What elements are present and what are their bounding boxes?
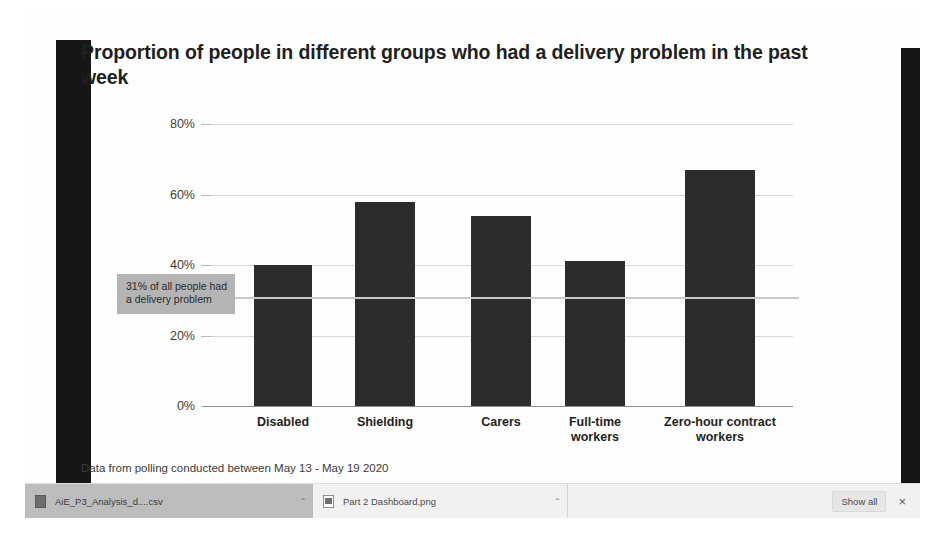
bar-series: [211, 124, 793, 406]
reference-line-31pct: [203, 297, 799, 299]
chart-footnote: Data from polling conducted between May …: [81, 462, 389, 474]
y-axis-tick: [201, 195, 211, 196]
chevron-up-icon[interactable]: ⌃: [554, 497, 561, 506]
download-item[interactable]: AiE_P3_Analysis_d....csv ⌃: [25, 484, 313, 518]
bar: [685, 170, 755, 406]
chevron-up-icon[interactable]: ⌃: [300, 497, 307, 506]
download-item[interactable]: Part 2 Dashboard.png ⌃: [313, 484, 568, 518]
downloads-spacer: [568, 484, 832, 518]
y-axis-tick: [201, 336, 211, 337]
y-axis-tick-label: 0%: [177, 399, 195, 413]
document-canvas: Proportion of people in different groups…: [25, 10, 920, 483]
png-file-icon: [323, 495, 334, 508]
y-axis-tick: [201, 124, 211, 125]
show-all-downloads-button[interactable]: Show all: [832, 491, 886, 512]
y-axis-tick-label: 80%: [170, 117, 195, 131]
x-axis-label: Shielding: [337, 415, 433, 430]
image-viewer: Proportion of people in different groups…: [0, 0, 937, 543]
plot-wrapper: 0%20%40%60%80% DisabledShieldingCarersFu…: [25, 10, 920, 483]
bar: [355, 202, 415, 406]
bar: [565, 261, 625, 406]
x-axis-line: [203, 406, 793, 408]
y-axis-tick-label: 60%: [170, 188, 195, 202]
close-downloads-icon[interactable]: ×: [892, 495, 920, 508]
bar: [471, 216, 531, 406]
annotation-callout: 31% of all people had a delivery problem: [117, 274, 235, 314]
y-axis-tick-label: 40%: [170, 258, 195, 272]
download-filename: AiE_P3_Analysis_d....csv: [55, 496, 290, 507]
plot-area: 0%20%40%60%80% DisabledShieldingCarersFu…: [211, 124, 793, 406]
x-axis-label: Disabled: [235, 415, 331, 430]
y-axis-tick: [201, 265, 211, 266]
x-axis-label: Full-time workers: [547, 415, 643, 446]
y-axis-tick-label: 20%: [170, 329, 195, 343]
x-axis-label: Carers: [453, 415, 549, 430]
bar-chart-figure: Proportion of people in different groups…: [25, 10, 920, 483]
bar: [254, 265, 312, 406]
csv-file-icon: [35, 495, 46, 508]
download-filename: Part 2 Dashboard.png: [343, 496, 544, 507]
downloads-bar: AiE_P3_Analysis_d....csv ⌃ Part 2 Dashbo…: [25, 483, 920, 518]
x-axis-label: Zero-hour contract workers: [664, 415, 776, 446]
